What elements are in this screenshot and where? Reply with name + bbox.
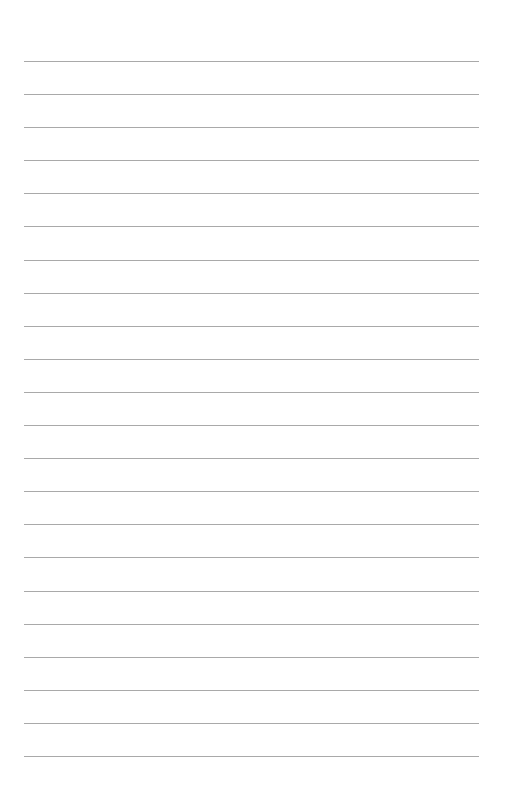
ruled-line: [24, 160, 479, 161]
ruled-line: [24, 458, 479, 459]
ruled-line: [24, 524, 479, 525]
ruled-line: [24, 293, 479, 294]
ruled-line: [24, 723, 479, 724]
lined-page: [0, 0, 506, 793]
ruled-line: [24, 392, 479, 393]
ruled-line: [24, 326, 479, 327]
ruled-line: [24, 657, 479, 658]
ruled-line: [24, 425, 479, 426]
ruled-line: [24, 491, 479, 492]
ruled-line: [24, 193, 479, 194]
ruled-line: [24, 359, 479, 360]
ruled-line: [24, 756, 479, 757]
ruled-line: [24, 624, 479, 625]
ruled-line: [24, 260, 479, 261]
ruled-line: [24, 557, 479, 558]
ruled-line: [24, 690, 479, 691]
ruled-line: [24, 127, 479, 128]
ruled-line: [24, 226, 479, 227]
ruled-line: [24, 94, 479, 95]
ruled-line: [24, 61, 479, 62]
ruled-line: [24, 591, 479, 592]
